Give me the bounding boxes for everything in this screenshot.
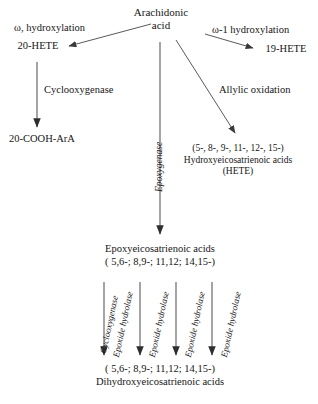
dhet-line2: Dihydroxyeicosatrienoic acids <box>62 376 258 389</box>
label-epoxide-hydrolase-3-text: Epoxide hydrolase <box>183 291 207 359</box>
hete-line1: (5-, 8-, 9-, 11-, 12-, 15-) <box>160 143 316 155</box>
label-omega-1-hydroxylation-text: ω-1 hydroxylation <box>212 24 289 35</box>
label-cyclooxygenase-left-text: Cyclooxygenase <box>44 84 113 95</box>
eet-line2: ( 5,6-; 8,9-; 11,12; 14,15-) <box>68 256 252 269</box>
edge-aa-to-19hete <box>205 34 253 48</box>
node-epoxyeicosatrienoic-acids: Epoxyeicosatrienoic acids ( 5,6-; 8,9-; … <box>68 243 252 269</box>
node-dihydroxyeicosatrienoic-acids: ( 5,6-; 8,9-; 11,12; 14,15-) Dihydroxyei… <box>62 363 258 389</box>
arachidonic-acid-line2: acid <box>118 19 204 32</box>
node-20-hete: 20-HETE <box>8 40 68 53</box>
hete-line2: Hydroxyeicosatrienoic acids <box>160 155 316 167</box>
node-arachidonic-acid: Arachidonic acid <box>118 6 204 33</box>
node-20-cooh-ara-label: 20-COOH-ArA <box>9 133 75 144</box>
dhet-line1: ( 5,6-; 8,9-; 11,12; 14,15-) <box>62 363 258 376</box>
label-epoxide-hydrolase-4-text: Epoxide hydrolase <box>219 291 243 359</box>
node-19-hete-label: 19-HETE <box>266 43 307 54</box>
label-epoxygenase: Epoxygenase <box>154 142 165 192</box>
label-epoxide-hydrolase-2-text: Epoxide hydrolase <box>147 291 171 359</box>
label-omega-hydroxylation: ω, hydroxylation <box>14 22 85 34</box>
label-allylic-oxidation-text: Allylic oxidation <box>219 84 290 95</box>
eet-line1: Epoxyeicosatrienoic acids <box>68 243 252 256</box>
label-epoxide-hydrolase-3: Epoxide hydrolase <box>183 291 207 359</box>
label-epoxygenase-text: Epoxygenase <box>154 142 164 192</box>
pathway-diagram: Arachidonic acid 20-HETE 19-HETE 20-COOH… <box>0 0 318 404</box>
label-cyclooxygenase-left: Cyclooxygenase <box>44 84 113 96</box>
label-omega-hydroxylation-text: ω, hydroxylation <box>14 22 85 33</box>
arachidonic-acid-line1: Arachidonic <box>118 6 204 19</box>
node-19-hete: 19-HETE <box>258 43 314 56</box>
node-hydroxyeicosatrienoic-acids: (5-, 8-, 9-, 11-, 12-, 15-) Hydroxyeicos… <box>160 143 316 178</box>
label-epoxide-hydrolase-2: Epoxide hydrolase <box>147 291 171 359</box>
label-omega-1-hydroxylation: ω-1 hydroxylation <box>212 24 289 36</box>
node-20-hete-label: 20-HETE <box>18 40 59 51</box>
node-20-cooh-ara: 20-COOH-ArA <box>0 133 84 146</box>
hete-line3: (HETE) <box>160 166 316 178</box>
label-allylic-oxidation: Allylic oxidation <box>219 84 290 96</box>
label-epoxide-hydrolase-4: Epoxide hydrolase <box>219 291 243 359</box>
